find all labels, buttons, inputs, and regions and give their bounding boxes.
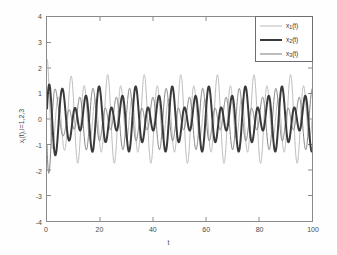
ytick-label: 1 (22, 90, 42, 97)
legend-label-x3: x3(t) (286, 51, 298, 58)
xtick-label: 20 (87, 226, 111, 233)
legend-line-swatch-x1 (259, 22, 283, 30)
xtick-label: 60 (194, 226, 218, 233)
ytick-label: -3 (22, 193, 42, 200)
legend-entry-x1: x1(t) (256, 19, 312, 33)
ytick-label: 3 (22, 38, 42, 45)
legend-label-x1: x1(t) (286, 23, 298, 30)
ytick-label: 4 (22, 13, 42, 20)
legend-label-x2-tail: (t) (292, 36, 298, 43)
y-axis-label-wrapper: xi(t),i=1,2,3 (14, 119, 28, 133)
ytick-label: 2 (22, 64, 42, 71)
y-axis-label: xi(t),i=1,2,3 (18, 109, 25, 143)
legend-label-x2: x2(t) (286, 37, 298, 44)
ytick-label: -1 (22, 141, 42, 148)
legend-label-x2-sub: 2 (289, 38, 292, 44)
xtick-label: 80 (248, 226, 272, 233)
xtick-label: 40 (141, 226, 165, 233)
legend-label-x1-tail: (t) (292, 22, 298, 29)
ytick-label: -2 (22, 167, 42, 174)
legend-entry-x3: x3(t) (256, 47, 312, 61)
xtick-label: 0 (34, 226, 58, 233)
y-axis-label-tail: (t),i=1,2,3 (18, 109, 25, 139)
legend-line-swatch-x3 (259, 50, 283, 58)
legend-label-x3-tail: (t) (292, 50, 298, 57)
legend-entry-x2: x2(t) (256, 33, 312, 47)
xtick-label: 100 (301, 226, 325, 233)
legend-label-x3-sub: 3 (289, 52, 292, 58)
series-line-x2 (47, 85, 312, 156)
x-axis-label: t (0, 239, 337, 246)
legend: x1(t) x2(t) x3(t) (255, 16, 313, 62)
ytick-label: -4 (22, 219, 42, 226)
y-axis-label-main: x (18, 140, 25, 144)
figure-canvas: 4 3 2 1 0 -1 -2 -3 -4 0 20 40 60 80 100 … (0, 0, 337, 255)
legend-line-swatch-x2 (259, 36, 283, 44)
legend-label-x1-sub: 1 (289, 24, 292, 30)
